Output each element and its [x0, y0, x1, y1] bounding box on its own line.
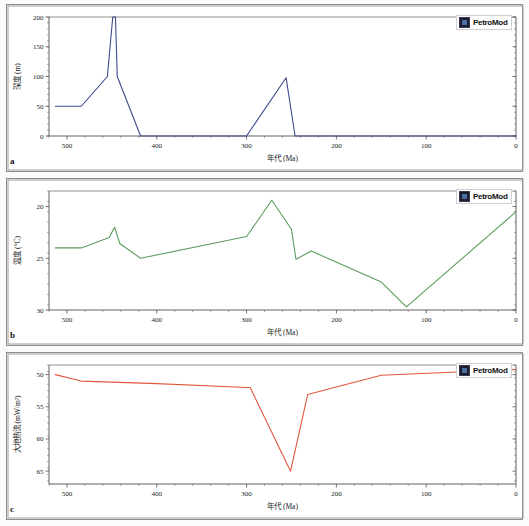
- svg-text:年代 (Ma): 年代 (Ma): [267, 153, 298, 163]
- panel-letter-c: c: [10, 504, 14, 514]
- svg-text:100: 100: [421, 316, 432, 324]
- svg-text:60: 60: [37, 435, 45, 443]
- svg-text:300: 300: [241, 142, 252, 150]
- temperature-panel: 5004003002001000202530年代 (Ma)温度 (°C): [6, 178, 523, 346]
- panel-letter-b: b: [10, 330, 15, 340]
- svg-text:400: 400: [152, 490, 163, 498]
- svg-text:20: 20: [37, 203, 45, 211]
- svg-text:400: 400: [152, 142, 163, 150]
- svg-text:30: 30: [37, 307, 45, 315]
- svg-text:温度 (°C): 温度 (°C): [12, 236, 22, 265]
- petromod-logo-icon: [459, 365, 470, 376]
- svg-text:50: 50: [37, 103, 45, 111]
- svg-text:25: 25: [37, 255, 45, 263]
- svg-text:500: 500: [62, 316, 73, 324]
- petromod-logo-icon: [459, 191, 470, 202]
- svg-text:年代 (Ma): 年代 (Ma): [267, 327, 298, 337]
- svg-text:150: 150: [33, 43, 44, 51]
- svg-text:200: 200: [331, 142, 342, 150]
- svg-text:200: 200: [331, 490, 342, 498]
- svg-text:0: 0: [40, 133, 44, 141]
- svg-text:300: 300: [241, 316, 252, 324]
- legend-label-c: PetroMod: [473, 366, 508, 375]
- svg-text:年代 (Ma): 年代 (Ma): [267, 501, 298, 511]
- burial-depth-chart: 5004003002001000050100150200年代 (Ma)深度 (m…: [7, 5, 524, 171]
- svg-text:0: 0: [514, 142, 518, 150]
- svg-text:500: 500: [62, 490, 73, 498]
- heat-flow-chart: 500400300200100050556065年代 (Ma)大地热流 (mW/…: [7, 353, 524, 519]
- legend-petromod-b: PetroMod: [456, 189, 512, 204]
- figure-sheet: 5004003002001000050100150200年代 (Ma)深度 (m…: [0, 0, 529, 526]
- svg-text:100: 100: [33, 73, 44, 81]
- panel-letter-a: a: [10, 156, 15, 166]
- burial-depth-panel: 5004003002001000050100150200年代 (Ma)深度 (m…: [6, 4, 523, 172]
- svg-text:500: 500: [62, 142, 73, 150]
- svg-text:50: 50: [37, 371, 45, 379]
- svg-text:65: 65: [37, 468, 45, 476]
- svg-text:200: 200: [33, 14, 44, 22]
- svg-text:深度 (m): 深度 (m): [12, 63, 22, 90]
- legend-label-b: PetroMod: [473, 192, 508, 201]
- svg-text:55: 55: [37, 403, 45, 411]
- svg-text:200: 200: [331, 316, 342, 324]
- svg-text:大地热流 (mW/m²): 大地热流 (mW/m²): [12, 395, 22, 453]
- svg-text:0: 0: [514, 316, 518, 324]
- legend-petromod-c: PetroMod: [456, 363, 512, 378]
- heat-flow-panel: 500400300200100050556065年代 (Ma)大地热流 (mW/…: [6, 352, 523, 520]
- svg-text:100: 100: [421, 142, 432, 150]
- petromod-logo-icon: [459, 17, 470, 28]
- svg-text:300: 300: [241, 490, 252, 498]
- svg-text:0: 0: [514, 490, 518, 498]
- temperature-chart: 5004003002001000202530年代 (Ma)温度 (°C): [7, 179, 524, 345]
- legend-petromod-a: PetroMod: [456, 15, 512, 30]
- legend-label-a: PetroMod: [473, 18, 508, 27]
- svg-text:100: 100: [421, 490, 432, 498]
- svg-text:400: 400: [152, 316, 163, 324]
